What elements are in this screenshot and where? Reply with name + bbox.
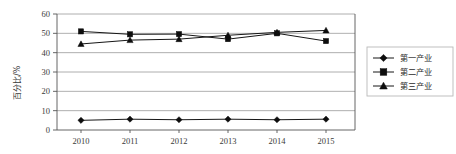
- square-marker-icon: [380, 69, 387, 76]
- y-tick-label-50: 50: [42, 28, 51, 38]
- chart-canvas: 60 50 40 30 20 10 0 百分比/% 2010 2011 2012…: [0, 0, 456, 154]
- legend-label-1: 第二产业: [400, 67, 432, 77]
- y-tick-label-40: 40: [42, 48, 51, 58]
- square-marker-icon: [127, 32, 132, 37]
- x-tick-label-2011: 2011: [122, 136, 139, 146]
- legend-label-0: 第一产业: [400, 53, 432, 63]
- legend-item-0[interactable]: 第一产业: [373, 53, 432, 63]
- y-tick-marks: [53, 14, 57, 130]
- y-tick-label-10: 10: [42, 106, 51, 116]
- x-tick-label-2015: 2015: [318, 136, 335, 146]
- y-tick-label-30: 30: [42, 67, 51, 77]
- diamond-marker-icon: [380, 54, 387, 61]
- y-axis-title: 百分比/%: [12, 65, 22, 100]
- x-tick-label-2010: 2010: [73, 136, 90, 146]
- x-tick-label-2014: 2014: [269, 136, 287, 146]
- legend-item-2[interactable]: 第三产业: [373, 81, 432, 91]
- legend-item-1[interactable]: 第二产业: [373, 67, 432, 77]
- legend-label-2: 第三产业: [400, 81, 432, 91]
- line-chart: 60 50 40 30 20 10 0 百分比/% 2010 2011 2012…: [0, 0, 456, 154]
- x-tick-label-2012: 2012: [171, 136, 188, 146]
- square-marker-icon: [323, 38, 328, 43]
- y-tick-label-20: 20: [42, 86, 51, 96]
- y-tick-label-60: 60: [42, 9, 51, 19]
- square-marker-icon: [78, 29, 83, 34]
- legend: 第一产业 第二产业 第三产业: [367, 47, 453, 96]
- x-tick-label-2013: 2013: [220, 136, 237, 146]
- y-tick-label-0: 0: [46, 125, 50, 135]
